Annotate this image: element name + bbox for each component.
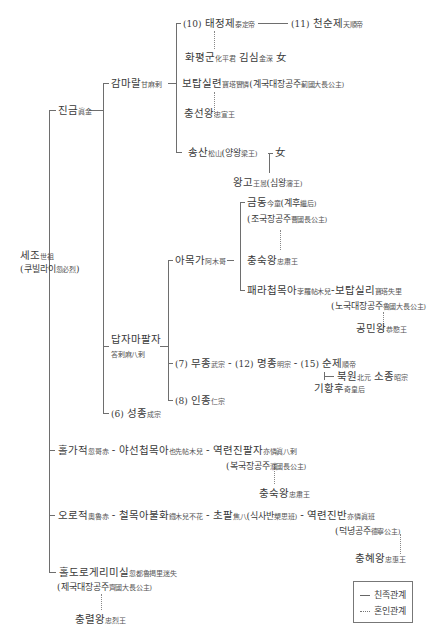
root-to-orojeok-line bbox=[49, 515, 55, 516]
solid-line-icon bbox=[360, 595, 370, 596]
node-yeongnyeonjinpalja-title: (복국장공주濮國長公主) bbox=[226, 459, 306, 474]
node-injong: (8) 인종仁宗 bbox=[175, 394, 225, 409]
node-geumdong: 금동今童(계후繼后) bbox=[247, 196, 316, 211]
node-chungsukwang: 충숙왕忠肅王 bbox=[247, 254, 297, 269]
amokga-branch-line bbox=[240, 202, 241, 290]
root-trunk-line bbox=[49, 110, 50, 572]
gamarala-branch-line bbox=[176, 23, 177, 152]
node-seongjong: (6) 성종成宗 bbox=[111, 407, 161, 422]
to-taejeongje-line bbox=[176, 23, 181, 24]
to-damja-line bbox=[103, 346, 109, 347]
sunje-bugwon-line bbox=[324, 376, 334, 377]
node-chungseonwang: 충선왕忠宣王 bbox=[184, 107, 234, 122]
node-cheonsunje: (11) 천순제天順帝 bbox=[291, 17, 363, 32]
damja-out-line bbox=[160, 346, 168, 347]
node-songsan-daughter: 女 bbox=[275, 146, 285, 159]
to-gamarala-line bbox=[103, 83, 109, 84]
node-songsan: 송산松山(양왕梁王) bbox=[188, 146, 257, 161]
node-orojeok-chain: 오로적奧魯赤 - 철목아불화鐵木兒不花 - 초팔焦八(식사반槊思班) - 역련진… bbox=[58, 509, 374, 524]
node-botapsillyeon: 보탑실련寶塔實憐(계국대장공주薊國大長公主) bbox=[182, 77, 344, 92]
node-chungnyeolwang: 충렬왕忠烈王 bbox=[75, 613, 125, 628]
to-amokga-line bbox=[168, 260, 173, 261]
node-mujong-chain: (7) 무종武宗 - (12) 명종明宗 - (15) 순제順帝 bbox=[175, 357, 356, 372]
node-damjamapalja-hanja: 答剌麻八剌 bbox=[111, 347, 145, 362]
legend-kin: 친족관계 bbox=[360, 588, 406, 601]
legend-marriage: 혼인관계 bbox=[360, 604, 406, 617]
to-mujong-line bbox=[168, 363, 173, 364]
node-damjamapalja: 답자마팔자 bbox=[111, 333, 161, 346]
node-paerachammoka: 패라첩목아孛羅帖木兒-보탑실리寶塔失里 bbox=[247, 284, 402, 299]
node-chunghyewang: 충혜왕忠惠王 bbox=[355, 552, 405, 567]
amokga-out-line bbox=[227, 260, 234, 261]
taejeong-marriage-line bbox=[214, 31, 215, 49]
node-geumdong-title: (조국장공주曹國長公主) bbox=[247, 212, 327, 227]
node-holdorogerimisil: 홀도로게리미실忽都魯揭里迷失 bbox=[59, 566, 177, 581]
to-seongjong-line bbox=[103, 413, 109, 414]
jingeum-branch-line bbox=[103, 83, 104, 413]
node-jingeum: 진금眞金 bbox=[58, 104, 92, 119]
node-gihwanghu: 기황후奇皇后 bbox=[314, 382, 364, 397]
geumdong-marriage-line bbox=[280, 230, 281, 250]
node-gongminwang: 공민왕恭愍王 bbox=[356, 322, 406, 337]
node-sejo-alt: (쿠빌라이忽必烈) bbox=[20, 263, 79, 277]
to-geumdong-line bbox=[240, 202, 245, 203]
node-sejo: 세조世祖 bbox=[20, 249, 54, 264]
node-holgajeok-chain: 홀가적忽哥赤 - 야선첩목아也先帖木兒 - 역련진팔자亦憐眞八剌 bbox=[58, 444, 297, 459]
node-yeongnyeonjinban-title: (덕녕공주德寧公主) bbox=[335, 524, 400, 539]
damja-branch-line bbox=[168, 260, 169, 400]
songsan-wanggo-line bbox=[269, 153, 270, 173]
node-amokga: 아목가阿木哥 bbox=[175, 254, 225, 269]
root-to-holgajeok-line bbox=[49, 450, 55, 451]
to-paera-line bbox=[240, 290, 245, 291]
taejeong-cheonsun-line bbox=[258, 23, 288, 24]
dotted-line-icon bbox=[360, 611, 370, 612]
gamarala-out-line bbox=[168, 83, 176, 84]
node-gamarala: 감마랄甘麻剌 bbox=[111, 77, 161, 92]
holdoro-marriage-line bbox=[101, 594, 102, 610]
node-wanggo: 왕고王暠(심왕瀋王) bbox=[233, 176, 302, 191]
root-to-jingeum-line bbox=[49, 110, 56, 111]
node-hwapyeonggun: 화평군化平君 김심金深 女 bbox=[185, 51, 286, 66]
to-injong-line bbox=[168, 400, 173, 401]
node-holdorogerimisil-title: (제국대장공주齊國大長公主) bbox=[57, 580, 152, 595]
node-paerachammoka-title: (노국대장공주魯國大長公主) bbox=[331, 299, 426, 314]
root-to-holdoro-line bbox=[49, 572, 56, 573]
to-songsan-line bbox=[176, 152, 182, 153]
node-chungsukwang-2: 충숙왕忠肅王 bbox=[259, 487, 309, 502]
legend: 친족관계 혼인관계 bbox=[353, 581, 413, 623]
node-taejeongje: (10) 태정제泰定帝 bbox=[183, 17, 255, 32]
